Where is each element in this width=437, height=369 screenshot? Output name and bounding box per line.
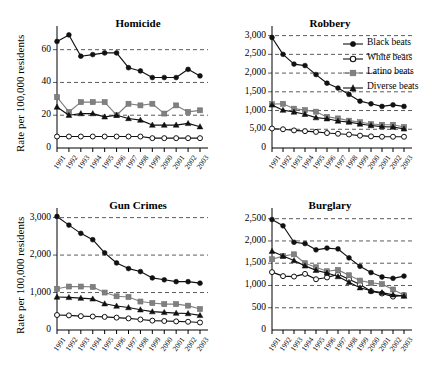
data-point-black-beats [347, 255, 352, 260]
data-point-white-beats [281, 274, 286, 279]
data-point-black-beats [303, 241, 308, 246]
data-point-black-beats [402, 274, 407, 279]
data-point-latino-beats [358, 278, 363, 283]
data-point-white-beats [303, 271, 308, 276]
y-tick-label: 500 [218, 303, 266, 313]
figure-container: HomicideRate per 100,000 residents020406… [0, 0, 437, 369]
data-point-latino-beats [391, 287, 396, 292]
data-point-black-beats [292, 240, 297, 245]
data-point-latino-beats [380, 282, 385, 287]
y-tick-label: 2,000 [218, 236, 266, 246]
data-point-black-beats [314, 247, 319, 252]
data-point-black-beats [336, 247, 341, 252]
data-point-black-beats [270, 217, 275, 222]
data-point-black-beats [391, 276, 396, 281]
y-tick-label: 1,500 [218, 258, 266, 268]
data-point-latino-beats [347, 273, 352, 278]
data-point-black-beats [325, 246, 330, 251]
data-point-white-beats [292, 274, 297, 279]
data-point-black-beats [281, 223, 286, 228]
data-point-latino-beats [270, 257, 275, 262]
data-point-black-beats [380, 275, 385, 280]
data-point-latino-beats [369, 280, 374, 285]
plot-area-burglary [0, 0, 437, 369]
data-point-latino-beats [292, 252, 297, 257]
y-tick-label: 1,000 [218, 280, 266, 290]
data-point-diverse-beats [269, 248, 275, 253]
y-tick-label: 2,500 [218, 214, 266, 224]
data-point-white-beats [270, 270, 275, 275]
y-tick-label: 0 [218, 325, 266, 335]
data-point-black-beats [358, 264, 363, 269]
data-point-white-beats [325, 275, 330, 280]
data-point-black-beats [369, 270, 374, 275]
data-point-latino-beats [336, 267, 341, 272]
data-point-white-beats [314, 277, 319, 282]
